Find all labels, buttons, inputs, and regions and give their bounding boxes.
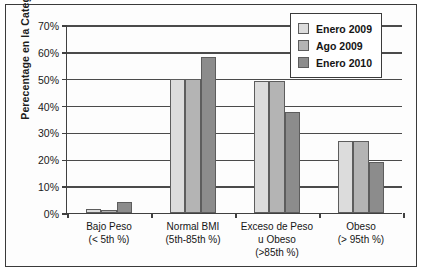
x-category-label-line: Obeso	[338, 220, 384, 233]
x-tick-mark	[67, 213, 69, 218]
bar	[269, 81, 285, 213]
legend-swatch-icon	[298, 40, 309, 51]
x-category-label: Obeso(> 95th %)	[338, 220, 384, 246]
bar	[117, 202, 133, 213]
x-category-label-line: (>85th %)	[241, 246, 313, 259]
y-tick-mark	[62, 25, 67, 27]
legend-item: Ago 2009	[298, 37, 372, 54]
bar	[170, 79, 186, 213]
legend-label: Enero 2010	[316, 57, 372, 69]
y-tick-label: 70%	[38, 20, 59, 32]
y-tick-mark	[62, 133, 67, 135]
x-category-label: Normal BMI(5th-85th %)	[165, 220, 220, 246]
bar	[353, 141, 369, 213]
y-tick-label: 40%	[38, 101, 59, 113]
x-tick-mark	[319, 213, 321, 218]
gridline	[67, 106, 402, 108]
legend-label: Enero 2009	[316, 23, 372, 35]
bar	[254, 81, 270, 213]
bar	[86, 209, 102, 213]
y-tick-label: 20%	[38, 154, 59, 166]
bar	[338, 141, 354, 214]
x-category-label-line: Exceso de Peso	[241, 220, 313, 233]
legend-item: Enero 2009	[298, 20, 372, 37]
gridline	[67, 133, 402, 135]
x-tick-mark	[151, 213, 153, 218]
y-tick-label: 10%	[38, 181, 59, 193]
legend-swatch-icon	[298, 57, 309, 68]
bar	[201, 57, 217, 213]
x-category-label: Exceso de Pesou Obeso(>85th %)	[241, 220, 313, 259]
x-category-label-line: (> 95th %)	[338, 233, 384, 246]
legend-label: Ago 2009	[316, 40, 363, 52]
bar-chart-figure: Perecentage en la Categoría 0%10%20%30%4…	[0, 0, 422, 272]
y-tick-label: 60%	[38, 47, 59, 59]
y-tick-label: 30%	[38, 127, 59, 139]
y-tick-mark	[62, 52, 67, 54]
bar	[285, 112, 301, 213]
y-tick-label: 0%	[44, 208, 59, 220]
y-tick-mark	[62, 79, 67, 81]
y-axis-title: Perecentage en la Categoría	[19, 0, 31, 143]
x-category-label-line: (5th-85th %)	[165, 233, 220, 246]
gridline	[67, 79, 402, 81]
y-tick-mark	[62, 160, 67, 162]
x-category-label-line: (< 5th %)	[86, 233, 132, 246]
x-category-label-line: Bajo Peso	[86, 220, 132, 233]
bar	[101, 210, 117, 213]
bar	[369, 162, 385, 213]
legend-swatch-icon	[298, 23, 309, 34]
bar	[185, 79, 201, 213]
x-category-label: Bajo Peso(< 5th %)	[86, 220, 132, 246]
y-tick-label: 50%	[38, 74, 59, 86]
y-tick-mark	[62, 106, 67, 108]
x-category-label-line: u Obeso	[241, 233, 313, 246]
y-tick-mark	[62, 186, 67, 188]
x-category-label-line: Normal BMI	[165, 220, 220, 233]
x-tick-mark	[403, 213, 405, 218]
legend-item: Enero 2010	[298, 54, 372, 71]
chart-legend: Enero 2009Ago 2009Enero 2010	[290, 13, 382, 78]
x-tick-mark	[235, 213, 237, 218]
